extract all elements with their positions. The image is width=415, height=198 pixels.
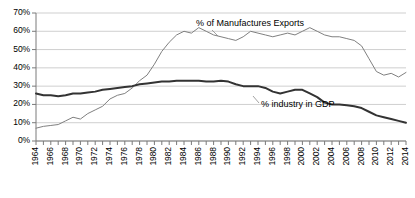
y-axis-label-0%: 0% bbox=[2, 136, 30, 145]
y-axis-label-40%: 40% bbox=[2, 63, 30, 72]
axis-lines bbox=[36, 13, 406, 141]
series-line-manufactures-exports bbox=[36, 28, 406, 129]
x-axis-label-1968: 1968 bbox=[61, 147, 70, 166]
series-label-industry-in-gdp: % industry in GDP bbox=[261, 99, 335, 109]
chart-container: 70%60%50%40%30%20%10%0% 1964196619681970… bbox=[0, 0, 415, 198]
x-axis-label-1964: 1964 bbox=[31, 147, 40, 166]
x-axis-label-1970: 1970 bbox=[75, 147, 84, 166]
gridlines bbox=[36, 13, 406, 141]
series-label-manufactures-exports: % of Manufactures Exports bbox=[196, 18, 304, 28]
x-axis-ticks bbox=[36, 141, 406, 145]
x-axis-label-2010: 2010 bbox=[371, 147, 380, 166]
y-axis-label-10%: 10% bbox=[2, 118, 30, 127]
x-axis-label-1976: 1976 bbox=[120, 147, 129, 166]
x-axis-label-1996: 1996 bbox=[268, 147, 277, 166]
data-series-group bbox=[36, 28, 406, 129]
chart-plot-area bbox=[0, 0, 415, 198]
y-axis-label-30%: 30% bbox=[2, 81, 30, 90]
x-axis-label-1990: 1990 bbox=[223, 147, 232, 166]
industry-leader-line bbox=[253, 96, 259, 103]
x-axis-label-2004: 2004 bbox=[327, 147, 336, 166]
y-axis-label-20%: 20% bbox=[2, 99, 30, 108]
x-axis-label-2008: 2008 bbox=[357, 147, 366, 166]
x-axis-label-1972: 1972 bbox=[90, 147, 99, 166]
x-axis-label-1974: 1974 bbox=[105, 147, 114, 166]
annotation-leader-lines bbox=[212, 30, 259, 103]
x-axis-label-2012: 2012 bbox=[386, 147, 395, 166]
x-axis-label-1998: 1998 bbox=[283, 147, 292, 166]
x-axis-label-2014: 2014 bbox=[401, 147, 410, 166]
y-axis-ticks bbox=[32, 13, 36, 141]
y-axis-label-70%: 70% bbox=[2, 8, 30, 17]
x-axis-label-1988: 1988 bbox=[209, 147, 218, 166]
x-axis-label-1984: 1984 bbox=[179, 147, 188, 166]
x-axis-label-1994: 1994 bbox=[253, 147, 262, 166]
y-axis-label-50%: 50% bbox=[2, 45, 30, 54]
x-axis-label-2000: 2000 bbox=[297, 147, 306, 166]
x-axis-label-1992: 1992 bbox=[238, 147, 247, 166]
x-axis-label-1982: 1982 bbox=[164, 147, 173, 166]
series-line-industry-in-gdp bbox=[36, 81, 406, 123]
x-axis-label-2006: 2006 bbox=[342, 147, 351, 166]
x-axis-label-1986: 1986 bbox=[194, 147, 203, 166]
x-axis-label-2002: 2002 bbox=[312, 147, 321, 166]
x-axis-label-1978: 1978 bbox=[135, 147, 144, 166]
y-axis-label-60%: 60% bbox=[2, 26, 30, 35]
x-axis-label-1966: 1966 bbox=[46, 147, 55, 166]
x-axis-label-1980: 1980 bbox=[149, 147, 158, 166]
